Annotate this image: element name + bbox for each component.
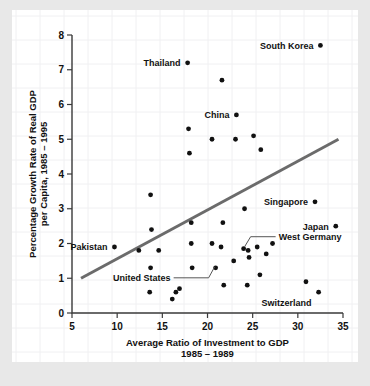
point-label-united-states: United States (113, 273, 171, 283)
x-tick-label: 10 (112, 321, 124, 332)
data-point (112, 245, 117, 250)
data-point (187, 151, 192, 156)
data-point (185, 60, 190, 65)
data-point (241, 246, 246, 251)
chart-card: 0123456785101520253035PakistanThailandUn… (12, 10, 358, 362)
y-tick-label: 5 (58, 134, 64, 145)
data-point (234, 113, 239, 118)
data-point (148, 192, 153, 197)
x-tick-label: 15 (157, 321, 169, 332)
data-point (304, 279, 309, 284)
point-label-south-korea: South Korea (260, 41, 314, 51)
data-point (136, 248, 141, 253)
point-label-west-germany: West Germany (279, 232, 342, 242)
data-point (156, 248, 161, 253)
point-label-singapore: Singapore (264, 197, 308, 207)
point-label-china: China (204, 110, 230, 120)
data-point (219, 245, 224, 250)
data-point (255, 245, 260, 250)
data-point (251, 133, 256, 138)
x-tick-label: 25 (247, 321, 259, 332)
data-point (246, 248, 251, 253)
x-axis-title: Average Ratio of Investment to GDP (126, 337, 289, 348)
data-point (189, 220, 194, 225)
data-point (170, 297, 175, 302)
data-point (231, 258, 236, 263)
y-tick-label: 0 (58, 308, 64, 319)
data-point (318, 43, 323, 48)
point-label-switzerland: Switzerland (262, 298, 312, 308)
data-point (245, 283, 250, 288)
y-tick-label: 1 (58, 273, 64, 284)
data-point (173, 290, 178, 295)
point-label-pakistan: Pakistan (70, 242, 107, 252)
x-axis-title-line2: 1985 – 1989 (181, 348, 234, 359)
data-point (177, 286, 182, 291)
x-tick-label: 35 (337, 321, 349, 332)
data-point (316, 290, 321, 295)
axis-lines (72, 35, 343, 313)
y-tick-label: 2 (58, 238, 64, 249)
y-axis-title: Percentage Growth Rate of Real GDP (27, 89, 38, 258)
data-point (220, 78, 225, 83)
scatter-plot: 0123456785101520253035PakistanThailandUn… (12, 10, 358, 362)
trend-line (81, 139, 338, 278)
data-point (313, 199, 318, 204)
data-point (242, 206, 247, 211)
data-point (148, 265, 153, 270)
data-point (210, 137, 215, 142)
data-point (258, 147, 263, 152)
y-tick-label: 7 (58, 64, 64, 75)
x-tick-label: 20 (202, 321, 214, 332)
data-point (210, 241, 215, 246)
data-point (220, 220, 225, 225)
y-axis-title-line2: per Capita, 1985 – 1995 (38, 121, 49, 226)
point-label-japan: Japan (303, 222, 329, 232)
data-point (333, 224, 338, 229)
data-point (190, 265, 195, 270)
data-point (257, 272, 262, 277)
data-point (247, 255, 252, 260)
data-point (264, 252, 269, 257)
y-tick-label: 4 (58, 169, 64, 180)
x-tick-label: 5 (69, 321, 75, 332)
y-tick-label: 3 (58, 203, 64, 214)
data-point (149, 227, 154, 232)
data-point (233, 137, 238, 142)
x-tick-label: 30 (292, 321, 304, 332)
data-point (186, 126, 191, 131)
data-point (270, 241, 275, 246)
point-label-thailand: Thailand (144, 58, 181, 68)
data-point (147, 290, 152, 295)
data-point (189, 241, 194, 246)
data-point (221, 283, 226, 288)
y-tick-label: 8 (58, 30, 64, 41)
y-tick-label: 6 (58, 99, 64, 110)
